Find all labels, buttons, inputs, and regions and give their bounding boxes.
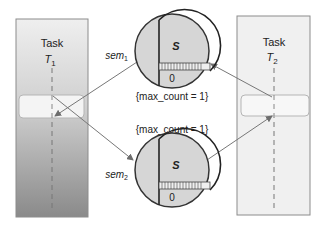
sem2-label: sem2 <box>105 169 128 181</box>
task-t2-label: Task <box>263 36 286 48</box>
sem1-count: 0 <box>169 73 175 84</box>
task-t2-critical-region <box>241 95 309 116</box>
task-t1-label: Task <box>41 37 64 49</box>
semaphore-diagram: Task T1 Task T2 <box>0 0 326 227</box>
sem1-s-label: S <box>172 40 180 52</box>
semaphore-sem2: {max_count = 1} S 0 sem2 <box>105 124 220 207</box>
sem2-count-bar <box>159 182 210 189</box>
task-t2: Task T2 <box>237 16 310 215</box>
sem2-s-label: S <box>172 159 180 171</box>
task-t1: Task T1 <box>16 19 88 217</box>
sem2-count: 0 <box>169 192 175 203</box>
sem1-count-bar <box>159 63 210 70</box>
semaphore-sem1: S 0 sem1 {max_count = 1} <box>105 9 220 102</box>
sem1-label: sem1 <box>105 50 128 62</box>
sem1-max-count: {max_count = 1} <box>136 91 209 102</box>
